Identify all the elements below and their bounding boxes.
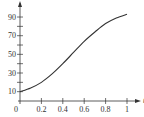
y-tick-label: 30: [8, 69, 16, 78]
x-axis-arrow-icon: [135, 99, 141, 103]
y-axis-arrow-icon: [18, 1, 22, 7]
x-axis: 00.20.40.60.81t: [14, 96, 144, 114]
line-chart: 1030507090 00.20.40.60.81t: [0, 0, 144, 117]
series-line: [20, 14, 127, 91]
x-tick-label: 0: [14, 105, 18, 114]
x-tick-label: 0.8: [101, 105, 111, 114]
y-tick-label: 90: [8, 13, 16, 22]
y-axis: 1030507090: [8, 1, 23, 104]
x-tick-label: 0.2: [36, 105, 46, 114]
y-tick-label: 70: [8, 31, 16, 40]
x-axis-label: t: [143, 96, 144, 105]
x-tick-label: 0.4: [58, 105, 68, 114]
x-tick-label: 0.6: [79, 105, 89, 114]
y-tick-label: 50: [8, 50, 16, 59]
x-tick-label: 1: [125, 105, 129, 114]
data-series: [20, 14, 127, 91]
y-tick-label: 10: [8, 87, 16, 96]
